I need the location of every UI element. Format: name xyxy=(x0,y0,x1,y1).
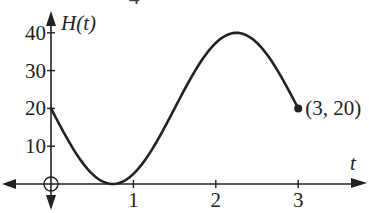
chart: 4 123 10203040 H(t) t (3, 20) xyxy=(0,0,369,213)
y-axis-up-arrow-icon xyxy=(46,11,56,26)
x-tick-label: 3 xyxy=(293,188,304,212)
cropped-text-fragment: 4 xyxy=(129,0,140,9)
y-tick-label: 10 xyxy=(25,134,46,158)
y-tick-label: 30 xyxy=(25,59,46,83)
x-tick-label: 1 xyxy=(128,188,139,212)
y-tick-label: 20 xyxy=(25,96,46,120)
x-tick-label: 2 xyxy=(211,188,222,212)
endpoint-dot-icon xyxy=(294,104,302,112)
y-tick-label: 40 xyxy=(25,21,46,45)
function-curve xyxy=(51,33,298,184)
endpoint-label: (3, 20) xyxy=(305,96,361,120)
x-axis-title: t xyxy=(350,151,357,175)
x-axis-right-arrow-icon xyxy=(351,178,367,188)
y-axis-title: H(t) xyxy=(60,11,96,35)
x-axis-left-arrow-icon xyxy=(2,179,16,189)
y-axis-down-arrow-icon xyxy=(46,195,56,210)
